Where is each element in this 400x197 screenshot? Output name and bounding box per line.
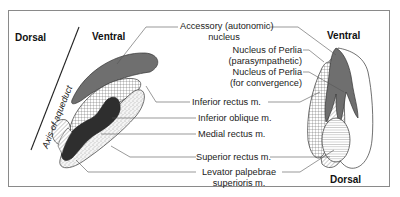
left-ventral-label: Ventral	[92, 31, 125, 42]
label-perlia-parasympathetic: Nucleus of Perlia (parasympathetic)	[226, 45, 302, 67]
left-dorsal-label: Dorsal	[15, 32, 46, 43]
label-medial-rectus: Medial rectus m.	[198, 129, 265, 140]
label-perlia-conv-line2: (for convergence)	[226, 78, 302, 89]
right-dorsal-label: Dorsal	[330, 174, 361, 185]
label-perlia-para-line2: (parasympathetic)	[226, 56, 302, 67]
label-inferior-rectus: Inferior rectus m.	[192, 97, 261, 108]
label-perlia-convergence: Nucleus of Perlia (for convergence)	[226, 67, 302, 89]
label-accessory-nucleus: Accessory (autonomic) nucleus	[180, 21, 268, 43]
label-perlia-conv-line1: Nucleus of Perlia	[226, 67, 302, 78]
label-levator-line2: superioris m.	[196, 178, 282, 189]
right-ventral-label: Ventral	[327, 30, 360, 41]
label-accessory-line1: Accessory (autonomic)	[180, 21, 268, 32]
label-superior-rectus: Superior rectus m.	[196, 152, 271, 163]
label-accessory-line2: nucleus	[180, 32, 268, 43]
label-perlia-para-line1: Nucleus of Perlia	[226, 45, 302, 56]
label-inferior-oblique: Inferior oblique m.	[198, 113, 272, 124]
label-levator-palpebrae: Levator palpebrae superioris m.	[196, 167, 282, 189]
label-levator-line1: Levator palpebrae	[196, 167, 282, 178]
